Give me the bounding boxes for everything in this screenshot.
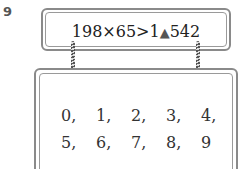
digit-option: 0, bbox=[61, 106, 96, 125]
digit-option: 9 bbox=[201, 133, 236, 152]
question-number: 9 bbox=[3, 4, 12, 19]
digit-option: 4, bbox=[201, 106, 236, 125]
digit-board: 0, 1, 2, 3, 4, 5, 6, 7, 8, 9 bbox=[34, 68, 238, 169]
expression-left: 198×65>1 bbox=[72, 22, 160, 41]
inequality-expression: 198×65>1▲542 bbox=[43, 22, 229, 41]
digit-option: 2, bbox=[131, 106, 166, 125]
digit-option: 5, bbox=[61, 133, 96, 152]
digit-option: 1, bbox=[96, 106, 131, 125]
expression-board: 198×65>1▲542 bbox=[41, 8, 231, 51]
triangle-icon: ▲ bbox=[160, 25, 170, 40]
digit-options-grid: 0, 1, 2, 3, 4, 5, 6, 7, 8, 9 bbox=[61, 106, 236, 152]
digit-option: 7, bbox=[131, 133, 166, 152]
digit-option: 6, bbox=[96, 133, 131, 152]
expression-right: 542 bbox=[170, 22, 201, 41]
digit-option: 8, bbox=[166, 133, 201, 152]
digit-option: 3, bbox=[166, 106, 201, 125]
